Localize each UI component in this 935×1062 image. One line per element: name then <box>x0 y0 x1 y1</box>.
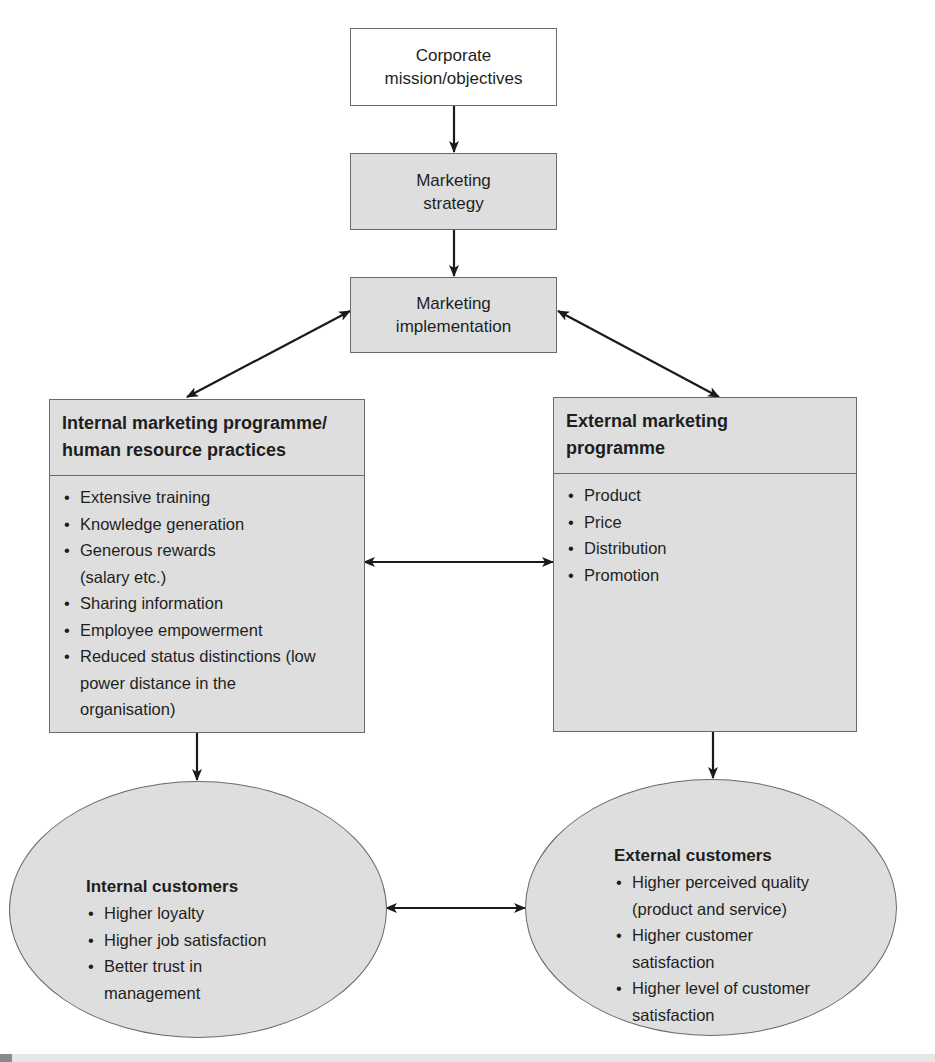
external-customers-content: External customers Higher perceived qual… <box>614 843 854 1028</box>
list-item: Product <box>566 482 844 509</box>
list-item: Higher level of customer satisfaction <box>614 975 862 1028</box>
external-programme-title-line2: programme <box>566 435 844 462</box>
arrow-implementation-internal <box>187 311 350 397</box>
page-edge-marker <box>0 1054 12 1062</box>
list-item: Reduced status distinctions (low power d… <box>62 643 330 723</box>
internal-customers-title: Internal customers <box>86 874 346 900</box>
list-item: Higher perceived quality (product and se… <box>614 869 852 922</box>
list-item: Knowledge generation <box>62 511 352 538</box>
external-programme-list: Product Price Distribution Promotion <box>554 474 856 588</box>
list-item: Higher customer satisfaction <box>614 922 802 975</box>
internal-programme-heading: Internal marketing programme/ human reso… <box>50 400 364 476</box>
arrow-implementation-external <box>558 311 719 397</box>
list-item: Generous rewards (salary etc.) <box>62 537 240 590</box>
page-bottom-strip <box>0 1054 935 1062</box>
external-customers-title: External customers <box>614 843 854 869</box>
list-item: Promotion <box>566 562 844 589</box>
marketing-strategy-box: Marketing strategy <box>350 153 557 230</box>
implementation-line1: Marketing <box>396 292 511 315</box>
list-item: Extensive training <box>62 484 352 511</box>
list-item: Better trust in management <box>86 953 244 1006</box>
internal-programme-title-line2: human resource practices <box>62 437 352 464</box>
internal-customers-content: Internal customers Higher loyalty Higher… <box>86 874 346 1006</box>
list-item: Sharing information <box>62 590 352 617</box>
list-item: Distribution <box>566 535 844 562</box>
list-item: Price <box>566 509 844 536</box>
external-customers-ellipse: External customers Higher perceived qual… <box>525 779 897 1036</box>
implementation-line2: implementation <box>396 315 511 338</box>
internal-programme-list: Extensive training Knowledge generation … <box>50 476 364 723</box>
internal-marketing-programme-box: Internal marketing programme/ human reso… <box>49 399 365 733</box>
external-customers-list: Higher perceived quality (product and se… <box>614 869 854 1028</box>
corporate-mission-box: Corporate mission/objectives <box>350 28 557 106</box>
list-item: Higher job satisfaction <box>86 927 346 954</box>
list-item: Higher loyalty <box>86 900 346 927</box>
strategy-line2: strategy <box>416 192 491 215</box>
internal-customers-list: Higher loyalty Higher job satisfaction B… <box>86 900 346 1006</box>
corporate-line2: mission/objectives <box>385 67 523 90</box>
external-programme-title-line1: External marketing <box>566 408 844 435</box>
list-item: Employee empowerment <box>62 617 352 644</box>
internal-programme-title-line1: Internal marketing programme/ <box>62 410 352 437</box>
external-marketing-programme-box: External marketing programme Product Pri… <box>553 397 857 732</box>
external-programme-heading: External marketing programme <box>554 398 856 474</box>
corporate-line1: Corporate <box>385 44 523 67</box>
internal-customers-ellipse: Internal customers Higher loyalty Higher… <box>9 781 387 1038</box>
marketing-implementation-box: Marketing implementation <box>350 277 557 353</box>
strategy-line1: Marketing <box>416 169 491 192</box>
